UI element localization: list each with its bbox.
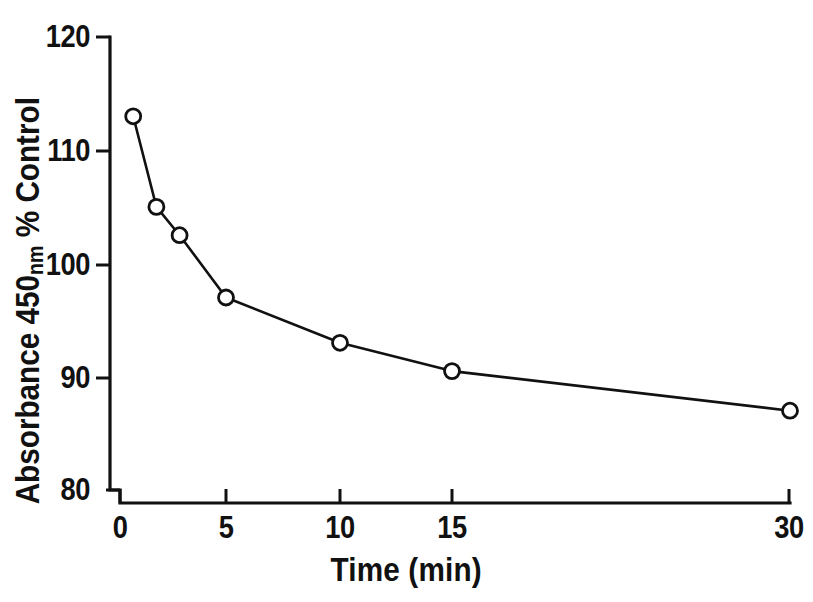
data-point: [126, 109, 141, 124]
x-tick-label-15: 15: [426, 512, 479, 543]
y-axis-title: Absorbance 450nm % Control: [0, 0, 54, 602]
data-point: [445, 364, 460, 379]
data-point: [149, 199, 164, 214]
data-point: [172, 228, 187, 243]
y-axis-title-text: Absorbance 450nm % Control: [11, 97, 44, 504]
data-point: [783, 403, 798, 418]
data-point: [333, 335, 348, 350]
y-axis-title-prefix: Absorbance 450: [9, 275, 46, 504]
data-point: [219, 290, 234, 305]
y-axis-title-suffix: % Control: [9, 97, 46, 245]
x-tick-label-30: 30: [763, 512, 813, 543]
x-axis-title-text: Time (min): [331, 553, 482, 586]
x-tick-label-5: 5: [200, 512, 253, 543]
x-axis-title: Time (min): [0, 553, 813, 586]
x-tick-label-10: 10: [314, 512, 367, 543]
x-tick-label-0: 0: [94, 512, 147, 543]
axis-lines: [110, 37, 790, 503]
chart-figure: 120 110 100 90 80 0 5 10 15 30 Time (min…: [0, 0, 813, 602]
y-axis-title-subscript: nm: [23, 246, 48, 275]
data-series-line: [133, 116, 790, 410]
